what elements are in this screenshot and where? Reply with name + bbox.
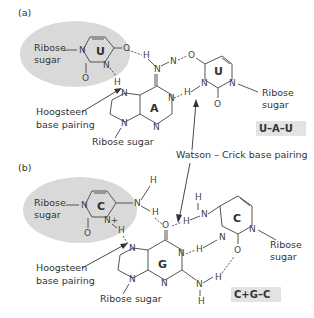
panel-label-b: (b) <box>18 162 31 173</box>
triplet-tag-a: U–A–U <box>259 123 293 134</box>
svg-text:Ribose sugar: Ribose sugar <box>100 293 162 304</box>
base-letter-a: A <box>150 102 159 115</box>
base-letter-g: G <box>158 258 167 271</box>
watson-crick-label: Watson – Crick base pairing <box>176 149 308 160</box>
svg-text:H: H <box>183 216 190 226</box>
svg-text:N: N <box>129 274 136 284</box>
panel-a: (a) N N U O O Ribose sugar H N N N <box>18 7 306 147</box>
svg-text:N: N <box>196 279 203 289</box>
svg-text:N: N <box>170 56 177 66</box>
svg-text:Ribose: Ribose <box>34 197 66 208</box>
svg-text:N: N <box>134 198 141 208</box>
svg-text:H: H <box>196 244 203 254</box>
svg-text:sugar: sugar <box>270 251 297 262</box>
cytosine-right-b: H N H N N C O H H Ribose sugar <box>172 192 302 283</box>
svg-text:H: H <box>143 50 150 60</box>
svg-text:N: N <box>121 118 128 128</box>
svg-text:H: H <box>150 175 157 185</box>
svg-text:H: H <box>114 77 121 87</box>
svg-text:N: N <box>79 45 86 55</box>
uracil-right-a: O N N U O H Ribose sugar <box>174 50 294 110</box>
svg-text:N: N <box>129 243 136 253</box>
svg-text:sugar: sugar <box>34 54 61 65</box>
svg-text:N: N <box>201 209 208 219</box>
base-triplet-diagram: (a) N N U O O Ribose sugar H N N N <box>0 0 314 318</box>
svg-text:O: O <box>188 50 195 60</box>
svg-text:N: N <box>161 278 168 288</box>
svg-text:N: N <box>219 232 226 242</box>
svg-text:H: H <box>198 296 205 306</box>
svg-text:sugar: sugar <box>262 99 289 110</box>
svg-text:N: N <box>81 200 88 210</box>
svg-text:N: N <box>229 78 236 88</box>
svg-text:N: N <box>153 122 160 132</box>
svg-text:O: O <box>82 73 89 83</box>
svg-text:sugar: sugar <box>34 209 61 220</box>
svg-text:Hoogsteen: Hoogsteen <box>36 106 87 117</box>
svg-text:Ribose: Ribose <box>262 87 294 98</box>
svg-text:H: H <box>152 207 159 217</box>
svg-text:H: H <box>118 225 125 235</box>
svg-text:N: N <box>249 224 256 234</box>
svg-text:Ribose: Ribose <box>270 239 302 250</box>
triplet-tag-b: C+G–C <box>234 289 270 300</box>
svg-text:Hoogsteen: Hoogsteen <box>36 262 87 273</box>
base-letter-u-right: U <box>214 65 223 78</box>
svg-text:O: O <box>123 43 130 53</box>
base-letter-c-left: C <box>97 200 105 213</box>
svg-text:Ribose: Ribose <box>34 42 66 53</box>
panel-b: (b) N N+ C N H H O Ribose sugar H <box>18 162 302 306</box>
base-letter-c-right: C <box>233 212 241 225</box>
svg-text:Ribose sugar: Ribose sugar <box>92 136 154 147</box>
svg-text:N: N <box>201 78 208 88</box>
svg-text:H: H <box>184 87 191 97</box>
svg-text:base pairing: base pairing <box>36 275 95 286</box>
svg-text:base pairing: base pairing <box>36 119 95 130</box>
svg-text:O: O <box>214 99 221 109</box>
svg-text:H: H <box>215 272 222 282</box>
svg-text:O: O <box>162 220 169 230</box>
svg-text:N+: N+ <box>104 215 118 225</box>
panel-label-a: (a) <box>18 7 31 18</box>
svg-text:O: O <box>84 228 91 238</box>
svg-text:N: N <box>103 60 110 70</box>
svg-text:N: N <box>168 93 175 103</box>
svg-text:N: N <box>178 248 185 258</box>
base-letter-u-left: U <box>96 45 105 58</box>
svg-text:H: H <box>195 192 202 202</box>
svg-text:O: O <box>234 245 241 255</box>
svg-text:N: N <box>121 88 128 98</box>
